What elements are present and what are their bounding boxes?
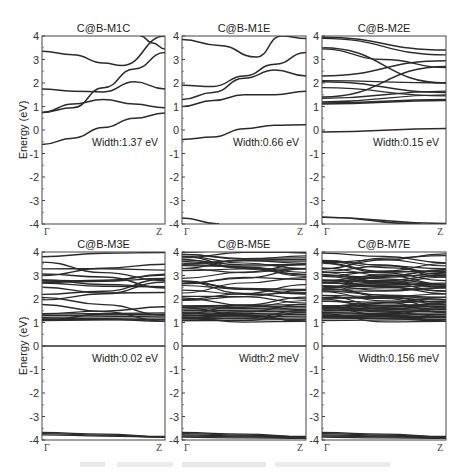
y-tick-label: 2: [173, 293, 179, 305]
y-tick-label: 0: [173, 124, 179, 136]
y-tick-label: -3: [309, 411, 319, 423]
x-tick-gamma: Γ: [44, 226, 50, 237]
x-tick-gamma: Γ: [324, 442, 330, 453]
y-tick-label: -4: [309, 434, 319, 446]
band-structure-figure: 43210-1-2-3-4ΓZC@B-M1CWidth:1.37 eVEnerg…: [0, 0, 466, 473]
y-axis-label: Energy (eV): [17, 317, 29, 376]
y-tick-label: -4: [309, 218, 319, 230]
band-line: [182, 218, 219, 224]
y-tick-label: 4: [313, 246, 319, 258]
y-tick-label: -1: [169, 364, 179, 376]
x-tick-z: Z: [437, 226, 443, 237]
band-panel: 43210-1-2-3-4ΓZC@B-M3EWidth:0.02 eVEnerg…: [17, 238, 165, 453]
figure-caption: [80, 462, 390, 467]
bandwidth-annotation: Width:1.37 eV: [92, 136, 158, 148]
y-tick-label: 3: [173, 270, 179, 282]
y-tick-label: -2: [169, 387, 179, 399]
x-tick-z: Z: [156, 226, 162, 237]
y-tick-label: 0: [313, 124, 319, 136]
y-tick-label: -4: [169, 434, 179, 446]
x-tick-gamma: Γ: [184, 442, 190, 453]
band-line: [42, 100, 165, 113]
y-tick-label: 3: [313, 270, 319, 282]
y-tick-label: 4: [173, 30, 179, 42]
y-tick-label: 3: [33, 270, 39, 282]
x-tick-z: Z: [156, 442, 162, 453]
y-tick-label: 4: [313, 30, 319, 42]
bandwidth-annotation: Width:0.156 meV: [358, 352, 439, 364]
y-tick-label: 2: [313, 293, 319, 305]
x-tick-gamma: Γ: [44, 442, 50, 453]
panel-title: C@B-M5E: [218, 238, 271, 250]
y-tick-label: 2: [173, 77, 179, 89]
y-tick-label: -2: [309, 387, 319, 399]
y-tick-label: 4: [173, 246, 179, 258]
y-tick-label: -1: [309, 364, 319, 376]
y-tick-label: 4: [33, 30, 39, 42]
y-tick-label: -2: [29, 171, 39, 183]
y-tick-label: -4: [29, 434, 39, 446]
y-tick-label: -2: [309, 171, 319, 183]
panel-title: C@B-M3E: [77, 238, 130, 250]
band-line: [140, 36, 165, 49]
y-tick-label: 3: [313, 54, 319, 66]
band-panel: 43210-1-2-3-4ΓZC@B-M5EWidth:2 meV: [169, 238, 306, 453]
y-tick-label: 0: [313, 340, 319, 352]
x-tick-z: Z: [297, 442, 303, 453]
bandwidth-annotation: Width:2 meV: [239, 352, 299, 364]
band-line: [182, 36, 306, 57]
band-line: [322, 61, 446, 76]
y-tick-label: -2: [29, 387, 39, 399]
bandwidth-annotation: Width:0.66 eV: [233, 136, 299, 148]
y-tick-label: -3: [169, 195, 179, 207]
y-tick-label: 4: [33, 246, 39, 258]
band-line: [182, 53, 306, 87]
band-line: [182, 91, 306, 106]
plot-frame: [182, 36, 306, 224]
y-tick-label: -4: [29, 218, 39, 230]
band-panel: 43210-1-2-3-4ΓZC@B-M2EWidth:0.15 eV: [309, 22, 446, 237]
y-tick-label: 2: [313, 77, 319, 89]
bandwidth-annotation: Width:0.02 eV: [92, 352, 158, 364]
y-axis-label: Energy (eV): [17, 101, 29, 160]
x-tick-gamma: Γ: [324, 226, 330, 237]
y-tick-label: 0: [173, 340, 179, 352]
band-panel: 43210-1-2-3-4ΓZC@B-M7EWidth:0.156 meV: [309, 238, 446, 453]
x-tick-z: Z: [437, 442, 443, 453]
panel-title: C@B-M1C: [77, 22, 130, 34]
y-tick-label: -1: [309, 148, 319, 160]
y-tick-label: -3: [29, 411, 39, 423]
band-line: [42, 82, 165, 92]
panel-title: C@B-M1E: [218, 22, 271, 34]
y-tick-label: -3: [169, 411, 179, 423]
y-tick-label: 2: [33, 293, 39, 305]
y-tick-label: 0: [33, 340, 39, 352]
y-tick-label: 1: [173, 317, 179, 329]
band-line: [42, 53, 165, 113]
y-tick-label: -3: [309, 195, 319, 207]
band-line: [322, 128, 446, 132]
y-tick-label: -1: [29, 148, 39, 160]
y-tick-label: 1: [313, 101, 319, 113]
y-tick-label: -1: [169, 148, 179, 160]
y-tick-label: 1: [33, 101, 39, 113]
y-tick-label: -2: [169, 171, 179, 183]
y-tick-label: 1: [313, 317, 319, 329]
bandwidth-annotation: Width:0.15 eV: [373, 136, 439, 148]
y-tick-label: 1: [173, 101, 179, 113]
y-tick-label: -1: [29, 364, 39, 376]
y-tick-label: -4: [169, 218, 179, 230]
x-tick-z: Z: [297, 226, 303, 237]
panel-title: C@B-M2E: [358, 22, 411, 34]
y-tick-label: 0: [33, 124, 39, 136]
y-tick-label: -3: [29, 195, 39, 207]
x-tick-gamma: Γ: [184, 226, 190, 237]
y-tick-label: 3: [33, 54, 39, 66]
panel-title: C@B-M7E: [358, 238, 411, 250]
band-panel: 43210-1-2-3-4ΓZC@B-M1CWidth:1.37 eVEnerg…: [17, 22, 165, 237]
band-panel: 43210-1-2-3-4ΓZC@B-M1EWidth:0.66 eV: [169, 22, 306, 237]
y-tick-label: 2: [33, 77, 39, 89]
y-tick-label: 1: [33, 317, 39, 329]
y-tick-label: 3: [173, 54, 179, 66]
band-line: [322, 48, 446, 83]
